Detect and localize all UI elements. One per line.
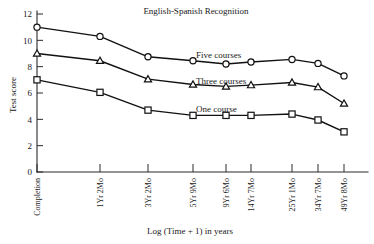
y-tick-label: 12 [23, 9, 32, 19]
data-point-square [315, 117, 321, 123]
y-tick-label: 6 [28, 88, 33, 98]
data-point-circle [97, 33, 103, 39]
data-point-square [34, 77, 40, 83]
x-axis-title: Log (Time + 1) in years [147, 226, 233, 236]
y-tick-label: 8 [28, 62, 33, 72]
x-tick-label: 34Yr 7Mo [314, 178, 323, 212]
chart-figure: English-Spanish Recognition 024681012 Co… [0, 0, 374, 244]
x-tick-label: 5Yr 9Mo [189, 178, 198, 208]
series-label: One course [196, 104, 237, 114]
data-point-triangle [33, 50, 40, 56]
data-point-square [289, 111, 295, 117]
x-tick-label: 14Yr 7Mo [247, 178, 256, 212]
x-tick-label: 25Yr 1Mo [288, 178, 297, 212]
y-axis: 024681012 [23, 9, 43, 177]
data-point-square [97, 89, 103, 95]
x-axis: Completion1Yr 2Mo3Yr 2Mo5Yr 9Mo9Yr 6Mo14… [33, 164, 368, 216]
line-chart: English-Spanish Recognition 024681012 Co… [0, 0, 374, 244]
series-layer [33, 24, 347, 135]
data-point-square [341, 129, 347, 135]
x-tick-label: 3Yr 2Mo [144, 178, 153, 208]
data-point-triangle [340, 100, 347, 106]
y-tick-label: 0 [28, 167, 33, 177]
y-tick-label: 10 [23, 36, 33, 46]
x-tick-label: 49Yr 8Mo [340, 178, 349, 212]
data-point-circle [289, 56, 295, 62]
x-tick-label: 9Yr 6Mo [222, 178, 231, 208]
data-point-circle [315, 60, 321, 66]
data-point-square [248, 112, 254, 118]
data-point-circle [223, 61, 229, 67]
data-point-circle [248, 59, 254, 65]
series-label: Three courses [196, 76, 247, 86]
y-tick-label: 4 [28, 115, 33, 125]
x-tick-label: 1Yr 2Mo [96, 178, 105, 208]
series-labels: Five coursesThree coursesOne course [196, 50, 247, 114]
chart-title: English-Spanish Recognition [143, 6, 249, 16]
data-point-circle [341, 73, 347, 79]
data-point-circle [34, 24, 40, 30]
series-label: Five courses [196, 50, 242, 60]
y-axis-title: Test score [8, 77, 18, 113]
y-tick-label: 2 [28, 141, 33, 151]
data-point-square [145, 107, 151, 113]
series-1 [34, 24, 347, 79]
series-polyline [37, 27, 344, 76]
data-point-circle [145, 54, 151, 60]
x-tick-label: Completion [33, 178, 42, 216]
